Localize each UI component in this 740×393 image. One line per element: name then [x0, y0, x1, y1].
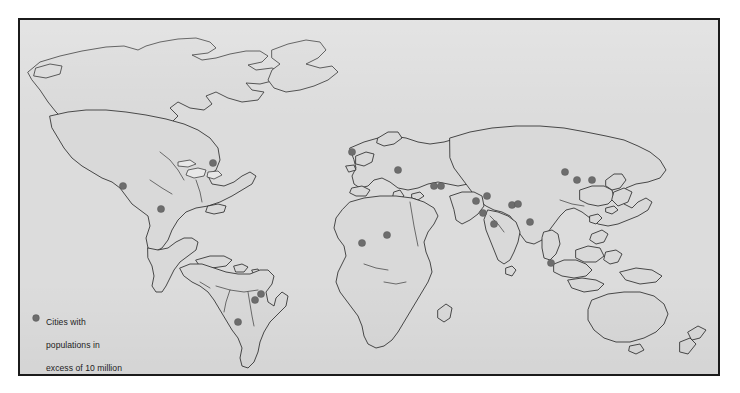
legend-circle-icon	[32, 314, 40, 322]
city-dot: Tehran	[437, 182, 444, 189]
city-dot: Bangkok	[526, 218, 533, 225]
great-lakes-east-path	[207, 171, 222, 179]
city-dot: Jakarta	[547, 259, 554, 266]
city-dot: Lagos	[358, 239, 365, 246]
city-dot: Cairo	[383, 231, 390, 238]
city-dot: Karachi	[472, 197, 479, 204]
city-dot: New York	[209, 159, 216, 166]
new-guinea-path	[620, 268, 662, 284]
africa-path	[334, 196, 438, 348]
legend-line-1: Cities with	[46, 317, 122, 329]
city-dot: Baghdad	[430, 182, 437, 189]
philippines-path	[590, 230, 608, 244]
tasmania-path	[629, 344, 644, 354]
city-dot: Sao Paulo	[251, 296, 258, 303]
indochina-path	[542, 230, 560, 260]
iberia-path	[350, 186, 370, 196]
city-dot: Seoul	[573, 176, 580, 183]
city-dot: London	[348, 148, 355, 155]
sumatra-path	[554, 260, 592, 278]
city-dot: Delhi	[483, 192, 490, 199]
legend-row: Cities with populations in excess of 10 …	[32, 305, 222, 376]
city-dot: Los Angeles	[119, 182, 126, 189]
landmass-asia	[450, 126, 666, 276]
hispaniola-path	[234, 264, 248, 272]
new-zealand-south-path	[680, 338, 696, 354]
arabia-path	[450, 192, 484, 224]
landmass-north-america	[28, 38, 338, 292]
new-zealand-north-path	[688, 326, 706, 340]
korea-japan-sea-region-path	[580, 186, 614, 206]
florida-path	[206, 204, 226, 214]
madagascar-path	[438, 304, 452, 322]
legend-dot-icon	[32, 305, 40, 326]
sulawesi-path	[604, 250, 622, 264]
city-dot: Dhaka	[514, 200, 521, 207]
city-dot: Istanbul	[394, 166, 401, 173]
world-map-figure: Los AngelesMexico CityNew YorkRio de Jan…	[18, 18, 720, 376]
australia-path	[588, 292, 668, 342]
landmass-oceania	[554, 230, 706, 354]
city-dot: Buenos Aires	[234, 318, 241, 325]
city-dot: Mumbai	[479, 209, 486, 216]
legend-line-3: excess of 10 million	[46, 363, 122, 375]
greenland-path	[268, 40, 338, 92]
city-dot: Beijing	[561, 168, 568, 175]
city-dot: Chennai	[490, 220, 497, 227]
java-path	[568, 278, 604, 292]
legend-line-2: populations in	[46, 340, 122, 352]
legend-text: Cities with populations in excess of 10 …	[46, 305, 122, 376]
landmass-africa	[334, 196, 452, 348]
figure-page: Los AngelesMexico CityNew YorkRio de Jan…	[0, 0, 740, 393]
map-legend: Cities with populations in excess of 10 …	[32, 305, 222, 376]
city-dot: Rio de Janeiro	[257, 290, 264, 297]
sri-lanka-path	[506, 266, 516, 276]
city-dot: Tokyo	[588, 176, 595, 183]
north-america-mainland-path	[50, 110, 256, 252]
borneo-path	[576, 246, 604, 262]
city-dot: Mexico City	[157, 205, 164, 212]
asia-mainland-path	[450, 126, 666, 244]
